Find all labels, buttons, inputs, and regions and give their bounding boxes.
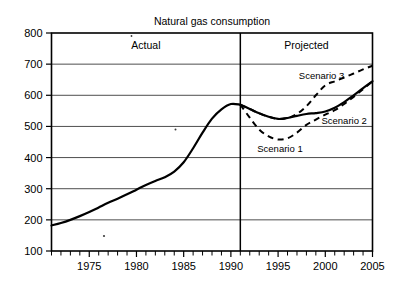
y-axis-label-500: 500: [24, 120, 42, 132]
chart-container: 100200300400500600700800 197519801985199…: [0, 0, 400, 283]
series-line-scenario-1: [240, 81, 372, 139]
plot-area-border: [52, 33, 373, 251]
scenario-1-label: Scenario 1: [257, 143, 302, 154]
region-labels: ActualProjected: [131, 39, 328, 51]
chart-title-group: Natural gas consumption: [154, 15, 270, 27]
actual-region: Actual: [131, 39, 160, 51]
y-axis-label-800: 800: [24, 27, 42, 39]
scan-speck-2: [103, 235, 105, 237]
scan-speck-3: [131, 35, 133, 37]
x-axis-tick-labels: 1975198019851990199520002005: [77, 260, 385, 272]
scenario-2-label: Scenario 2: [321, 115, 366, 126]
axis-ticks-group: [46, 33, 373, 257]
gridlines-group: [52, 64, 373, 220]
data-series-group: [52, 66, 373, 226]
x-axis-label-1980: 1980: [124, 260, 148, 272]
series-line-actual: [52, 104, 241, 226]
plot-frame: [52, 33, 373, 251]
y-axis-label-100: 100: [24, 245, 42, 257]
x-axis-label-1975: 1975: [77, 260, 101, 272]
series-annotations: Scenario 1Scenario 2Scenario 3: [257, 70, 367, 154]
projected-region: Projected: [284, 39, 329, 51]
x-axis-label-2005: 2005: [360, 260, 384, 272]
y-axis-label-600: 600: [24, 89, 42, 101]
y-axis-label-400: 400: [24, 152, 42, 164]
y-axis-tick-labels: 100200300400500600700800: [24, 27, 42, 257]
x-axis-label-1995: 1995: [266, 260, 290, 272]
scan-artifacts: [103, 35, 177, 237]
y-axis-label-200: 200: [24, 214, 42, 226]
x-axis-label-1990: 1990: [219, 260, 243, 272]
y-axis-label-300: 300: [24, 183, 42, 195]
natural-gas-consumption-chart: 100200300400500600700800 197519801985199…: [0, 0, 400, 283]
y-axis-label-700: 700: [24, 58, 42, 70]
scenario-3-label: Scenario 3: [299, 70, 344, 81]
chart-title: Natural gas consumption: [154, 15, 270, 27]
scan-speck-1: [175, 129, 177, 131]
x-axis-label-2000: 2000: [313, 260, 337, 272]
x-axis-label-1985: 1985: [171, 260, 195, 272]
